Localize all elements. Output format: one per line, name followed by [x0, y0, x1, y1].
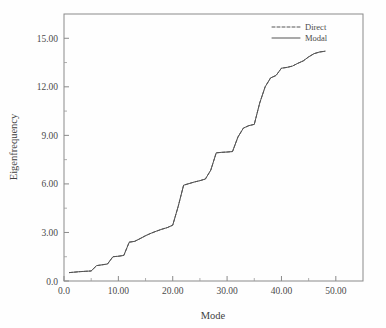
series-modal	[69, 51, 325, 272]
y-tick-label: 3.00	[41, 228, 58, 238]
x-tick-label: 20.00	[162, 286, 184, 296]
eigenfrequency-line-chart: 0.010.0020.0030.0040.0050.00 0.03.006.00…	[0, 0, 386, 328]
x-axis-tick-labels: 0.010.0020.0030.0040.0050.00	[58, 286, 347, 296]
x-tick-label: 30.00	[216, 286, 238, 296]
x-tick-label: 10.00	[108, 286, 130, 296]
y-tick-label: 15.00	[37, 34, 59, 44]
y-tick-label: 0.0	[46, 277, 58, 287]
x-tick-label: 50.00	[325, 286, 347, 296]
x-axis-title: Mode	[201, 310, 226, 321]
y-tick-label: 9.00	[41, 131, 58, 141]
y-axis-ticks	[64, 38, 69, 281]
chart-figure: 0.010.0020.0030.0040.0050.00 0.03.006.00…	[0, 0, 386, 328]
plot-frame	[64, 14, 363, 281]
y-tick-label: 12.00	[37, 82, 59, 92]
y-tick-label: 6.00	[41, 179, 58, 189]
x-axis-ticks	[64, 276, 336, 281]
chart-legend: Direct Modal	[272, 22, 328, 43]
x-tick-label: 40.00	[271, 286, 293, 296]
y-axis-title: Eigenfrequency	[8, 113, 19, 180]
data-series-group	[69, 51, 325, 272]
legend-label-direct: Direct	[305, 22, 327, 32]
legend-label-modal: Modal	[305, 33, 328, 43]
y-axis-tick-labels: 0.03.006.009.0012.0015.00	[37, 34, 59, 287]
x-tick-label: 0.0	[58, 286, 70, 296]
series-direct	[69, 51, 325, 272]
